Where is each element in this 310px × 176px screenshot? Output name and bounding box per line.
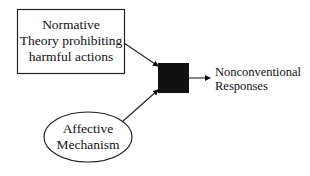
- output-line-2: Responses: [215, 79, 301, 93]
- edge-affective-to-junction: [122, 90, 158, 122]
- normative-line-1: Normative: [18, 17, 124, 33]
- normative-line-2: Theory prohibiting: [18, 33, 124, 49]
- normative-theory-label: Normative Theory prohibiting harmful act…: [18, 17, 124, 65]
- affective-mechanism-label: Affective Mechanism: [44, 121, 132, 153]
- junction-square: [158, 63, 189, 93]
- output-label: Nonconventional Responses: [215, 65, 301, 93]
- edge-normative-to-junction: [124, 43, 158, 66]
- affective-line-1: Affective: [44, 121, 132, 137]
- normative-line-3: harmful actions: [18, 49, 124, 65]
- affective-line-2: Mechanism: [44, 137, 132, 153]
- output-line-1: Nonconventional: [215, 65, 301, 79]
